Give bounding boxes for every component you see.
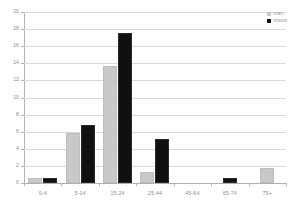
legend-swatch-man-icon	[267, 12, 271, 16]
y-axis-tick-label: 4	[0, 146, 19, 151]
y-axis-tick-mark	[21, 46, 24, 47]
y-axis-tick-mark	[21, 29, 24, 30]
y-axis-tick-label: 0	[0, 180, 19, 185]
y-axis-tick-label: 14	[0, 61, 19, 66]
gridline	[24, 183, 286, 184]
x-axis-tick-mark	[174, 183, 175, 186]
bar-group	[249, 12, 286, 183]
bar-group	[24, 12, 61, 183]
y-axis-tick-label: 6	[0, 129, 19, 134]
x-axis-tick-mark	[61, 183, 62, 186]
y-axis-tick-label: 20	[0, 9, 19, 14]
y-axis-tick-label: 10	[0, 95, 19, 100]
x-axis-tick-label: 75+	[249, 190, 286, 196]
x-axis-tick-label: 25-44	[136, 190, 173, 196]
bar-vrouw-0-4	[43, 178, 57, 183]
bar-man-75+	[260, 168, 274, 183]
y-axis-tick-label: 12	[0, 78, 19, 83]
y-axis-tick-mark	[21, 166, 24, 167]
bar-vrouw-15-24	[118, 33, 132, 183]
x-axis-tick-label: 0-4	[24, 190, 61, 196]
x-axis-tick-label: 65-74	[211, 190, 248, 196]
y-axis-tick-mark	[21, 80, 24, 81]
bar-vrouw-25-44	[155, 139, 169, 183]
y-axis-tick-mark	[21, 98, 24, 99]
bar-group	[99, 12, 136, 183]
legend-label-vrouw: vrouw	[273, 18, 287, 23]
bar-group	[211, 12, 248, 183]
y-axis-tick-label: 18	[0, 26, 19, 31]
y-axis-tick-label: 2	[0, 163, 19, 168]
y-axis-tick-mark	[21, 63, 24, 64]
y-axis-tick-label: 8	[0, 112, 19, 117]
bar-group	[174, 12, 211, 183]
x-axis-tick-labels: 0-45-1415-2425-4445-6465-7475+	[24, 190, 286, 196]
x-axis-tick-mark	[136, 183, 137, 186]
legend-item-vrouw: vrouw	[267, 18, 287, 23]
x-axis-tick-mark	[24, 183, 25, 186]
y-axis-tick-mark	[21, 132, 24, 133]
bar-series-container	[24, 12, 286, 183]
bar-chart: 02468101214161820 0-45-1415-2425-4445-64…	[0, 0, 299, 215]
y-axis-tick-mark	[21, 149, 24, 150]
bar-group	[61, 12, 98, 183]
plot-area	[24, 12, 286, 183]
legend: man vrouw	[267, 11, 287, 23]
y-axis-tick-mark	[21, 115, 24, 116]
x-axis-tick-mark	[99, 183, 100, 186]
x-axis-tick-label: 5-14	[61, 190, 98, 196]
bar-man-15-24	[103, 66, 117, 183]
bar-vrouw-5-14	[81, 125, 95, 183]
x-axis-tick-mark	[249, 183, 250, 186]
x-axis-tick-mark	[211, 183, 212, 186]
bar-man-5-14	[66, 133, 80, 183]
y-axis-tick-mark	[21, 12, 24, 13]
legend-swatch-vrouw-icon	[267, 19, 271, 23]
bar-vrouw-65-74	[223, 178, 237, 183]
y-axis-tick-label: 16	[0, 44, 19, 49]
x-axis-tick-mark	[286, 183, 287, 186]
legend-label-man: man	[273, 11, 283, 16]
bar-group	[136, 12, 173, 183]
bar-man-25-44	[140, 172, 154, 183]
x-axis-tick-label: 45-64	[174, 190, 211, 196]
legend-item-man: man	[267, 11, 287, 16]
x-axis-tick-label: 15-24	[99, 190, 136, 196]
bar-man-0-4	[28, 178, 42, 183]
